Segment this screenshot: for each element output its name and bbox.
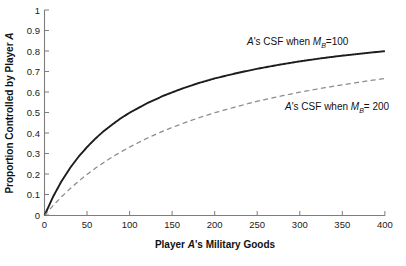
annotation-csf-100: A's CSF when MB=100: [246, 36, 349, 49]
y-tick-label: 1: [35, 5, 40, 16]
x-tick-label: 100: [122, 219, 138, 230]
x-tick-label: 250: [249, 219, 265, 230]
y-tick-labels: 1 0.9 0.8 0.7 0.6 0.5 0.4 0.3 0.2 0.1 0: [27, 5, 40, 221]
x-ticks: [45, 211, 385, 216]
y-tick-label: 0.7: [27, 66, 40, 77]
curve-csf-mb-100: [45, 51, 385, 215]
y-axis-title: Proportion Controlled by Player A: [4, 32, 15, 193]
x-tick-label: 400: [377, 219, 393, 230]
x-axis: 0 50 100 150 200 250 300 350 400 Player …: [42, 211, 393, 250]
x-tick-label: 0: [42, 219, 47, 230]
y-tick-label: 0.1: [27, 189, 40, 200]
y-tick-label: 0: [35, 210, 40, 221]
plot-curves: [45, 51, 385, 215]
csf-line-chart: 1 0.9 0.8 0.7 0.6 0.5 0.4 0.3 0.2 0.1 0 …: [0, 0, 406, 266]
y-tick-label: 0.9: [27, 25, 40, 36]
y-tick-label: 0.8: [27, 46, 40, 57]
y-tick-label: 0.4: [27, 128, 40, 139]
annotation-csf-200: A's CSF when MB= 200: [284, 101, 390, 114]
y-tick-label: 0.5: [27, 107, 40, 118]
y-tick-label: 0.3: [27, 148, 40, 159]
x-tick-labels: 0 50 100 150 200 250 300 350 400: [42, 219, 393, 230]
y-tick-label: 0.2: [27, 169, 40, 180]
y-axis: 1 0.9 0.8 0.7 0.6 0.5 0.4 0.3 0.2 0.1 0 …: [4, 5, 49, 221]
y-ticks: [45, 10, 50, 215]
y-tick-label: 0.6: [27, 87, 40, 98]
x-tick-label: 50: [82, 219, 93, 230]
curve-csf-mb-200: [45, 78, 385, 215]
x-tick-label: 150: [164, 219, 180, 230]
x-tick-label: 350: [334, 219, 350, 230]
x-axis-title: Player A's Military Goods: [155, 239, 276, 250]
chart-figure: 1 0.9 0.8 0.7 0.6 0.5 0.4 0.3 0.2 0.1 0 …: [0, 0, 406, 266]
x-tick-label: 300: [292, 219, 308, 230]
x-tick-label: 200: [207, 219, 223, 230]
